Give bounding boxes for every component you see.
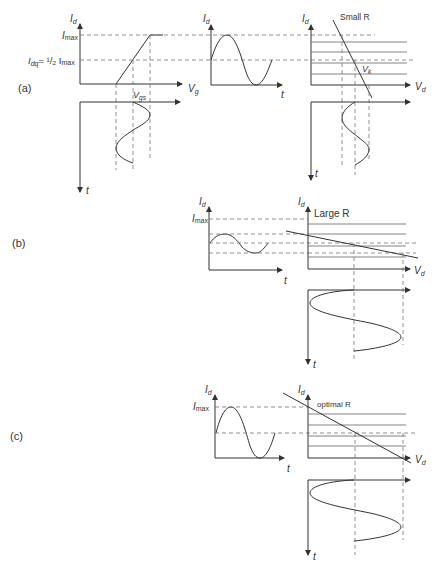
transfer-curve [116, 35, 163, 84]
svg-text:Id: Id [203, 13, 211, 25]
panel-a: (a) Id Vg Imax Idq= ¹/₂ Imax Vgs t [18, 12, 427, 196]
drain-current-waveform: Id Imax t [193, 384, 291, 474]
panel-b: (b) Id Imax t Id Large R Vd [12, 196, 426, 370]
output-current-sine [210, 234, 268, 253]
gate-input-waveform: t [80, 102, 180, 196]
panel-b-label: (b) [12, 237, 25, 249]
imax-label: Imax [62, 30, 79, 41]
load-line-large-r [286, 231, 418, 258]
load-label-small-r: Small R [340, 12, 370, 22]
svg-text:t: t [86, 185, 90, 196]
vgs-label: Vgs [133, 90, 147, 102]
svg-text:Id: Id [298, 384, 306, 396]
idq-label: Idq= ¹/₂ Imax [28, 55, 75, 68]
output-voltage-sine [342, 102, 369, 165]
svg-text:t: t [313, 551, 317, 562]
svg-text:Vg: Vg [188, 83, 199, 96]
output-voltage-sine [310, 290, 401, 351]
output-characteristic: Id Vd Small R Vk [302, 12, 427, 175]
svg-text:t: t [315, 168, 319, 179]
svg-text:Id: Id [302, 13, 310, 25]
drain-voltage-waveform: t [311, 102, 410, 180]
svg-text:Vd: Vd [414, 265, 426, 277]
svg-text:Imax: Imax [192, 213, 209, 224]
drain-voltage-waveform: t [308, 290, 410, 370]
svg-text:t: t [287, 463, 291, 474]
drain-voltage-waveform: t [308, 480, 410, 562]
drain-current-waveform: Id Imax t [192, 196, 288, 286]
svg-text:Vd: Vd [415, 81, 427, 93]
load-label-large-r: Large R [314, 208, 350, 219]
drain-current-waveform: Id t [203, 13, 285, 100]
svg-text:Id: Id [298, 196, 306, 208]
figure-canvas: (a) Id Vg Imax Idq= ¹/₂ Imax Vgs t [0, 0, 436, 569]
output-characteristic: Id optimal R Vd [283, 384, 427, 555]
svg-text:t: t [281, 89, 285, 100]
svg-text:Imax: Imax [193, 401, 210, 412]
output-current-sine [216, 407, 275, 458]
panel-c: (c) Id Imax t Id optimal R Vd [10, 384, 427, 562]
panel-c-label: (c) [10, 430, 23, 442]
svg-text:Id: Id [205, 384, 213, 396]
output-voltage-sine [310, 480, 401, 541]
svg-text:Vd: Vd [415, 454, 427, 466]
svg-text:Id: Id [70, 13, 78, 25]
svg-text:t: t [284, 275, 288, 286]
svg-text:t: t [313, 359, 317, 370]
transfer-characteristic: Id Vg Imax Idq= ¹/₂ Imax Vgs [28, 13, 199, 102]
svg-text:Id: Id [199, 196, 207, 208]
load-line-small-r [333, 20, 372, 98]
load-label-optimal-r: optimal R [317, 400, 351, 409]
output-characteristic: Id Large R Vd [286, 196, 426, 362]
panel-a-label: (a) [18, 82, 31, 94]
vk-label: Vk [362, 64, 372, 75]
